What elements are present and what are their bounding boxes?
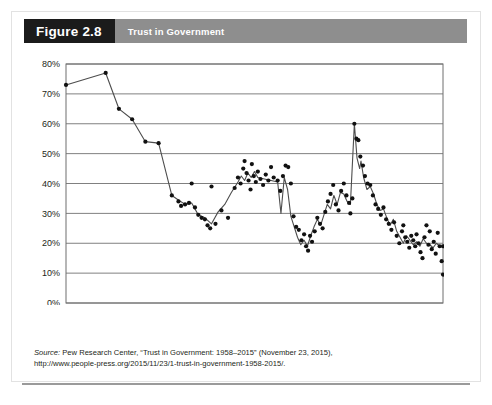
source-url: http://www.people-press.org/2015/11/23/1… bbox=[34, 358, 434, 369]
source-note: Source: Pew Research Center, “Trust in G… bbox=[34, 347, 434, 369]
data-point bbox=[289, 181, 293, 185]
data-point bbox=[276, 178, 280, 182]
data-point bbox=[187, 201, 191, 205]
data-point bbox=[254, 180, 258, 184]
figure-title: Trust in Government bbox=[115, 19, 467, 43]
data-point bbox=[428, 229, 432, 233]
data-point bbox=[361, 163, 365, 167]
data-point bbox=[413, 244, 417, 248]
data-point bbox=[436, 231, 440, 235]
y-tick-label: 50% bbox=[42, 149, 60, 159]
data-point bbox=[266, 178, 270, 182]
data-point bbox=[170, 193, 174, 197]
data-point bbox=[342, 181, 346, 185]
data-point bbox=[226, 216, 230, 220]
data-point bbox=[358, 155, 362, 159]
data-point bbox=[323, 210, 327, 214]
source-citation-text: Pew Research Center, “Trust in Governmen… bbox=[60, 348, 332, 357]
data-point bbox=[407, 246, 411, 250]
data-point bbox=[347, 201, 351, 205]
data-point bbox=[371, 193, 375, 197]
data-point bbox=[252, 174, 256, 178]
data-point bbox=[368, 183, 372, 187]
trust-in-government-chart: 0%10%20%30%40%50%60%70%80% 1958196119641… bbox=[24, 55, 444, 305]
y-tick-label: 60% bbox=[42, 119, 60, 129]
data-point bbox=[397, 241, 401, 245]
trend-line bbox=[66, 73, 443, 248]
data-point bbox=[326, 199, 330, 203]
data-point bbox=[420, 256, 424, 260]
data-point bbox=[64, 83, 68, 87]
data-point bbox=[248, 187, 252, 191]
data-point bbox=[430, 247, 434, 251]
data-point bbox=[313, 229, 317, 233]
data-point bbox=[403, 235, 407, 239]
data-point bbox=[209, 184, 213, 188]
data-point bbox=[315, 216, 319, 220]
data-point bbox=[339, 189, 343, 193]
data-point bbox=[373, 202, 377, 206]
figure-number-badge: Figure 2.8 bbox=[24, 19, 115, 43]
data-point bbox=[157, 141, 161, 145]
data-point bbox=[203, 217, 207, 221]
data-point bbox=[422, 235, 426, 239]
data-point bbox=[278, 189, 282, 193]
y-tick-label: 20% bbox=[42, 238, 60, 248]
data-point bbox=[239, 181, 243, 185]
data-point bbox=[269, 165, 273, 169]
data-point bbox=[299, 238, 303, 242]
data-point bbox=[401, 223, 405, 227]
data-point bbox=[233, 186, 237, 190]
data-point bbox=[117, 107, 121, 111]
data-point bbox=[441, 244, 444, 248]
data-point bbox=[193, 205, 197, 209]
figure-container: Figure 2.8 Trust in Government 0%10%20%3… bbox=[0, 0, 492, 405]
data-point bbox=[281, 174, 285, 178]
data-point bbox=[183, 202, 187, 206]
data-point bbox=[143, 140, 147, 144]
data-point bbox=[321, 226, 325, 230]
data-point bbox=[256, 169, 260, 173]
data-point bbox=[219, 208, 223, 212]
data-point bbox=[414, 232, 418, 236]
data-point bbox=[246, 178, 250, 182]
data-point bbox=[363, 174, 367, 178]
data-point bbox=[179, 204, 183, 208]
data-point bbox=[381, 205, 385, 209]
data-point bbox=[334, 202, 338, 206]
y-tick-label: 0% bbox=[47, 298, 60, 305]
data-point bbox=[306, 249, 310, 253]
data-point bbox=[302, 232, 306, 236]
y-tick-label: 80% bbox=[42, 59, 60, 69]
y-axis-tick-labels: 0%10%20%30%40%50%60%70%80% bbox=[42, 59, 60, 305]
bottom-rule bbox=[22, 383, 470, 385]
data-point bbox=[405, 240, 409, 244]
data-point bbox=[416, 241, 420, 245]
data-point bbox=[304, 244, 308, 248]
data-point bbox=[432, 240, 436, 244]
source-label: Source: bbox=[34, 348, 60, 357]
data-point bbox=[424, 223, 428, 227]
y-tick-label: 10% bbox=[42, 268, 60, 278]
data-point bbox=[418, 250, 422, 254]
data-point bbox=[352, 122, 356, 126]
y-tick-label: 70% bbox=[42, 89, 60, 99]
data-point bbox=[426, 243, 430, 247]
data-point bbox=[348, 211, 352, 215]
data-point bbox=[395, 234, 399, 238]
data-point bbox=[350, 196, 354, 200]
data-point bbox=[310, 240, 314, 244]
data-point bbox=[244, 171, 248, 175]
data-point bbox=[261, 183, 265, 187]
data-point bbox=[308, 234, 312, 238]
trend-line-series bbox=[66, 73, 443, 248]
data-point bbox=[213, 222, 217, 226]
data-point bbox=[400, 229, 404, 233]
data-point bbox=[297, 228, 301, 232]
data-point bbox=[241, 166, 245, 170]
data-point bbox=[104, 71, 108, 75]
y-tick-label: 30% bbox=[42, 209, 60, 219]
data-point bbox=[389, 228, 393, 232]
data-point bbox=[258, 177, 262, 181]
data-point bbox=[409, 234, 413, 238]
